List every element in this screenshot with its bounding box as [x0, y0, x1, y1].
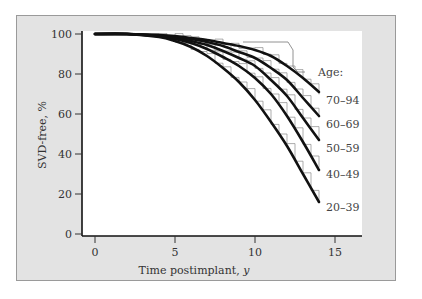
legend-label: 60–69 — [326, 118, 360, 131]
x-tick-label: 15 — [328, 246, 342, 259]
x-axis-ticks: 051015 — [92, 236, 343, 259]
y-axis-title: SVD-free, % — [36, 101, 49, 169]
x-tick-label: 0 — [92, 246, 99, 259]
y-tick-label: 60 — [58, 108, 72, 121]
plot-area — [82, 31, 362, 236]
legend-label: 70–94 — [326, 94, 360, 107]
legend-title: Age: — [317, 66, 343, 79]
y-tick-label: 40 — [58, 148, 72, 161]
x-axis-title: Time postimplant, y — [139, 264, 251, 277]
y-tick-label: 0 — [65, 228, 72, 241]
x-tick-label: 10 — [248, 246, 262, 259]
y-tick-label: 80 — [58, 68, 72, 81]
y-tick-label: 20 — [58, 188, 72, 201]
y-axis-ticks: 020406080100 — [51, 28, 82, 241]
y-tick-label: 100 — [51, 28, 72, 41]
x-tick-label: 5 — [172, 246, 179, 259]
legend-label: 20–39 — [326, 201, 360, 214]
legend-label: 50–59 — [326, 142, 360, 155]
legend-label: 40–49 — [326, 168, 360, 181]
survival-chart: 020406080100 051015 Time postimplant, y … — [0, 0, 422, 299]
